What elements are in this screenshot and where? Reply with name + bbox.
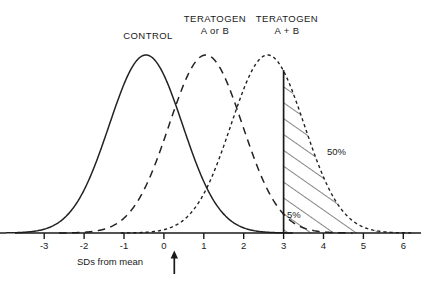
annotation-5-percent: 5% bbox=[287, 209, 301, 220]
x-tick-label--3: -3 bbox=[34, 240, 54, 251]
x-tick-label-4: 4 bbox=[314, 240, 334, 251]
teratogen-distribution-figure: CONTROL TERATOGEN A or B TERATOGEN A + B… bbox=[0, 0, 437, 284]
x-tick-label-1: 1 bbox=[194, 240, 214, 251]
x-tick-label-3: 3 bbox=[274, 240, 294, 251]
label-teratogen-a-plus-b: TERATOGEN A + B bbox=[232, 13, 342, 37]
label-teratogen-a-plus-b-line1: TERATOGEN bbox=[232, 13, 342, 25]
label-teratogen-a-plus-b-line2: A + B bbox=[232, 25, 342, 37]
hatched-area-50pct bbox=[284, 71, 415, 233]
x-tick-label-0: 0 bbox=[154, 240, 174, 251]
x-tick-label-5: 5 bbox=[353, 240, 373, 251]
annotation-50-percent: 50% bbox=[327, 146, 346, 157]
x-axis-title: SDs from mean bbox=[77, 256, 143, 267]
curve-teratogen-a-plus-b bbox=[121, 55, 415, 233]
x-tick-label--2: -2 bbox=[74, 240, 94, 251]
x-tick-label-6: 6 bbox=[393, 240, 413, 251]
x-axis-ticks bbox=[44, 233, 403, 239]
mean-arrow-icon bbox=[171, 251, 178, 275]
x-tick-label-2: 2 bbox=[234, 240, 254, 251]
x-tick-label--1: -1 bbox=[114, 240, 134, 251]
